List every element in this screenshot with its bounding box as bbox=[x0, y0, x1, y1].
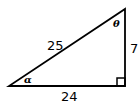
vertical-leg-label: 7 bbox=[130, 41, 138, 56]
alpha-angle-label: α bbox=[24, 74, 32, 85]
theta-angle-label: θ bbox=[113, 18, 120, 29]
hypotenuse-label: 25 bbox=[47, 38, 64, 53]
right-triangle-diagram: 25 7 24 θ α bbox=[0, 0, 140, 103]
right-angle-marker bbox=[117, 78, 125, 86]
horizontal-leg-label: 24 bbox=[61, 89, 78, 103]
